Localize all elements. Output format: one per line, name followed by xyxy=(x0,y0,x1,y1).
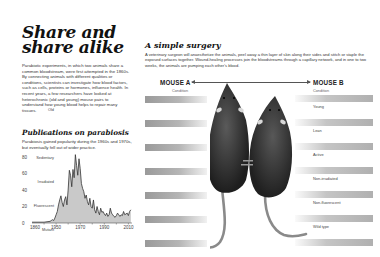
mouse-b-label: MOUSE B xyxy=(313,79,344,86)
publications-chart: 02040608018601950197019902010 xyxy=(20,150,135,230)
mouse-b-condition-header: Condition xyxy=(313,89,329,93)
mouse-b-condition: Lean xyxy=(313,128,322,133)
mouse-b-condition: Non-fluorescent xyxy=(313,200,340,205)
y-tick-label: 0 xyxy=(22,221,25,226)
parabiotic-mice-illustration xyxy=(210,80,310,255)
mouse-b-condition: Active xyxy=(313,152,324,157)
mouse-a-condition: Fluorescent xyxy=(0,203,54,208)
x-tick-label: 2010 xyxy=(123,225,134,230)
mouse-a-condition: Mutant xyxy=(0,227,54,232)
mouse-a-condition: Irradiated xyxy=(0,179,54,184)
mouse-a-stripe xyxy=(145,144,207,151)
intro-paragraph: Parabiotic experiments, in which two ani… xyxy=(22,63,130,113)
mouse-b-condition: Non-irradiated xyxy=(313,176,338,181)
mouse-a-stripe xyxy=(145,120,207,127)
title-line-2: share alike xyxy=(22,40,124,55)
mouse-a-body xyxy=(210,83,249,193)
chart-area xyxy=(32,155,131,223)
mouse-a-condition: Obese xyxy=(0,131,54,136)
section-description: A veterinary surgeon will anaesthetize t… xyxy=(145,52,373,68)
page-title: Share and share alike xyxy=(22,25,124,55)
section-title: A simple surgery xyxy=(145,40,221,50)
mouse-a-tail xyxy=(210,188,225,248)
mouse-b-tail xyxy=(265,195,306,236)
x-tick-label: 1970 xyxy=(75,225,86,230)
mouse-b-body xyxy=(249,96,292,197)
mouse-a-condition: Sedentary xyxy=(0,155,54,160)
x-tick-label: 1990 xyxy=(99,225,110,230)
mouse-a-stripe xyxy=(145,96,207,103)
mouse-a-stripe xyxy=(145,240,207,247)
publications-subtitle: Parabiosis gained popularity during the … xyxy=(22,139,134,150)
mouse-a-condition-header: Condition xyxy=(172,89,188,93)
mouse-a-stripe xyxy=(145,168,207,175)
mouse-a-stripe xyxy=(145,192,207,199)
y-tick-label: 40 xyxy=(22,188,28,193)
mouse-b-condition: Wild type xyxy=(313,224,329,229)
mouse-a-label: MOUSE A xyxy=(160,79,191,86)
y-tick-label: 60 xyxy=(22,171,28,176)
mouse-a-stripe xyxy=(145,216,207,223)
mouse-a-condition: Old xyxy=(0,107,54,112)
mouse-b-condition: Young xyxy=(313,104,324,109)
